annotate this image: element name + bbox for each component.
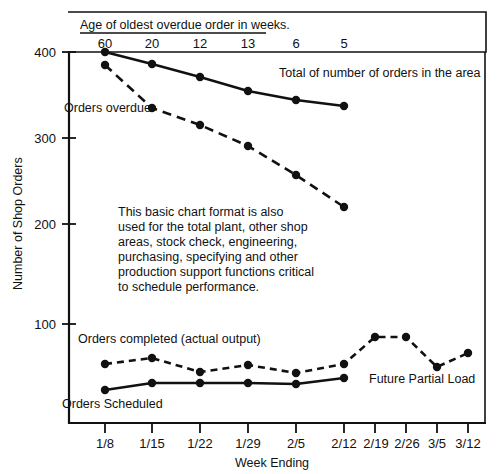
data-point (371, 333, 379, 341)
x-tick-label-5: 2/12 (331, 436, 356, 451)
note-line-5: to schedule performance. (118, 280, 259, 294)
data-point (464, 349, 472, 357)
note-line-0: This basic chart format is also (118, 205, 283, 219)
x-tick-label-3: 1/29 (235, 436, 260, 451)
age-value-5: 5 (340, 36, 347, 51)
data-point (148, 379, 156, 387)
data-point (292, 380, 300, 388)
annotation-future-partial-load: Future Partial Load (369, 372, 475, 386)
x-axis-ticks (105, 423, 468, 433)
note-line-2: areas, stock check, engineering, (118, 235, 297, 249)
note-line-4: production support functions critical (118, 265, 314, 279)
data-point (196, 379, 204, 387)
series-label-orders-completed: Orders completed (actual output) (78, 332, 261, 346)
series-label-total-orders: Total of number of orders in the area (279, 66, 481, 80)
data-point (101, 386, 109, 394)
data-point (292, 369, 300, 377)
data-point (292, 96, 300, 104)
x-tick-label-8: 3/5 (428, 436, 446, 451)
data-point (402, 333, 410, 341)
age-value-1: 20 (145, 36, 159, 51)
series-orders-scheduled (101, 374, 348, 394)
data-point (340, 360, 348, 368)
note-block: This basic chart format is also used for… (118, 205, 314, 294)
x-tick-label-4: 2/5 (287, 436, 305, 451)
y-axis-title: Number of Shop Orders (11, 157, 25, 290)
data-point (196, 73, 204, 81)
series-label-orders-scheduled: Orders Scheduled (62, 397, 163, 411)
data-point (101, 360, 109, 368)
chart-container: Age of oldest overdue order in weeks. 60… (0, 0, 500, 474)
data-point (196, 368, 204, 376)
x-tick-label-1: 1/15 (139, 436, 164, 451)
x-tick-label-9: 3/12 (455, 436, 480, 451)
note-line-3: purchasing, specifying and other (118, 250, 298, 264)
data-point (244, 142, 252, 150)
data-point (244, 87, 252, 95)
x-tick-label-6: 2/19 (363, 436, 388, 451)
x-axis-title: Week Ending (235, 456, 309, 470)
note-line-1: used for the total plant, other shop (118, 220, 308, 234)
y-tick-label-100: 100 (34, 317, 56, 332)
age-value-4: 6 (292, 36, 299, 51)
data-point (340, 102, 348, 110)
data-point (340, 374, 348, 382)
series-label-orders-overdue: Orders overdue (64, 101, 151, 115)
x-tick-label-2: 1/22 (187, 436, 212, 451)
data-point (101, 61, 109, 69)
x-tick-label-7: 2/26 (394, 436, 419, 451)
data-point (196, 121, 204, 129)
data-point (148, 354, 156, 362)
data-point (148, 60, 156, 68)
data-point (433, 363, 441, 371)
data-point (340, 203, 348, 211)
age-header-title: Age of oldest overdue order in weeks. (80, 18, 290, 32)
age-value-3: 13 (241, 36, 255, 51)
y-tick-label-400: 400 (34, 45, 56, 60)
data-point (292, 171, 300, 179)
shop-orders-line-chart: Age of oldest overdue order in weeks. 60… (0, 0, 500, 474)
x-tick-label-0: 1/8 (96, 436, 114, 451)
y-tick-label-200: 200 (34, 217, 56, 232)
data-point (101, 48, 109, 56)
y-tick-label-300: 300 (34, 131, 56, 146)
data-point (244, 361, 252, 369)
age-value-2: 12 (193, 36, 207, 51)
data-point (244, 379, 252, 387)
